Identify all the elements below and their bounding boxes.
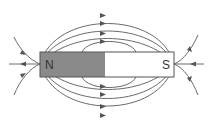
arrow-icon	[100, 104, 106, 109]
field-line-right-upper	[174, 35, 198, 64]
field-line-top-4	[82, 42, 136, 53]
bar-magnet	[40, 52, 174, 77]
arrow-icon	[20, 62, 26, 67]
field-line-left-upper	[14, 37, 40, 64]
field-line-bottom-4	[82, 77, 136, 88]
bar-magnet-field-diagram	[0, 0, 212, 130]
arrow-icon	[100, 21, 106, 26]
arrow-icon	[100, 13, 106, 18]
field-line-left-lower	[14, 64, 40, 95]
arrow-icon	[100, 31, 106, 36]
arrow-icon	[100, 92, 106, 97]
arrow-icon	[100, 84, 106, 89]
arrow-icon	[100, 39, 106, 44]
arrow-icon	[100, 113, 106, 118]
south-pole-label: S	[162, 59, 170, 71]
arrow-icon	[190, 62, 196, 67]
north-pole-label: N	[45, 59, 54, 71]
field-line-right-lower	[174, 64, 198, 95]
